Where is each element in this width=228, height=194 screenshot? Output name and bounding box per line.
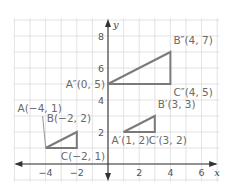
x-tick-label: 4 <box>167 167 173 178</box>
coordinate-plane: xy −4−22462468 A(−4, 1)B(−2, 2)C(−2, 1)A… <box>0 0 228 194</box>
leader-line <box>43 116 46 147</box>
point-label-C-prime-prime: C″(4, 5) <box>173 86 212 98</box>
x-tick-label: −2 <box>70 167 84 178</box>
x-tick-label: 2 <box>136 167 142 178</box>
point-label-B-prime: B′(3, 3) <box>158 98 196 110</box>
x-tick-label: 6 <box>199 167 205 178</box>
point-label-C-prime: C′(3, 2) <box>149 134 187 146</box>
point-label-A-prime-prime: A″(0, 5) <box>66 78 105 90</box>
x-tick-label: −4 <box>39 167 53 178</box>
y-tick-label: 2 <box>98 127 104 138</box>
point-label-A-prime: A′(1, 2) <box>112 134 150 146</box>
y-tick-label: 4 <box>98 95 104 106</box>
point-labels: A(−4, 1)B(−2, 2)C(−2, 1)A′(1, 2)B′(3, 3)… <box>18 34 213 162</box>
y-tick-label: 6 <box>98 63 104 74</box>
y-tick-label: 8 <box>98 31 104 42</box>
point-label-C: C(−2, 1) <box>61 150 105 162</box>
y-axis-label: y <box>112 19 119 30</box>
point-label-B-prime-prime: B″(4, 7) <box>173 34 212 46</box>
point-label-B: B(−2, 2) <box>47 112 91 124</box>
x-axis-label: x <box>214 167 220 178</box>
x-axis-left-arrow-icon <box>14 161 22 167</box>
